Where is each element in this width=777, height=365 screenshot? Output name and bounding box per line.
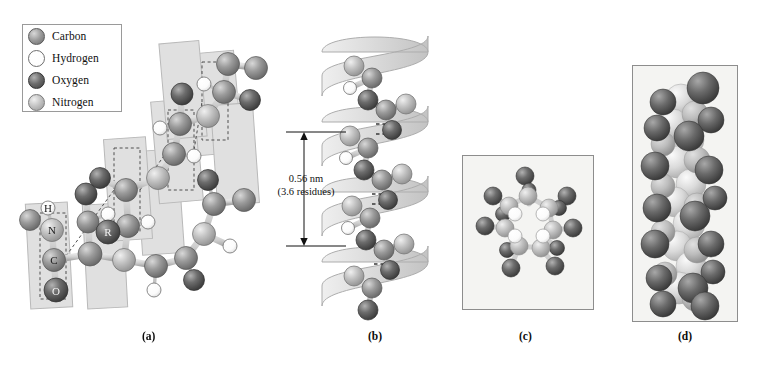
legend-item-carbon: Carbon bbox=[23, 25, 121, 47]
atom-label-hydrogen: H bbox=[44, 202, 52, 214]
panel-d-frame bbox=[632, 65, 738, 322]
legend-label-oxygen: Oxygen bbox=[52, 74, 89, 86]
pitch-residues-text: (3.6 residues) bbox=[268, 185, 344, 198]
panel-c-frame bbox=[462, 155, 594, 310]
atom-label-oxygen: O bbox=[52, 285, 60, 297]
legend-label-hydrogen: Hydrogen bbox=[52, 52, 99, 64]
pitch-nm-text: 0.56 nm bbox=[268, 172, 344, 185]
panel-caption-d: (d) bbox=[678, 330, 692, 342]
oxygen-sphere-icon bbox=[28, 72, 45, 89]
legend-item-oxygen: Oxygen bbox=[23, 69, 121, 91]
figure-canvas: H N C O R bbox=[0, 0, 777, 365]
pitch-value-label: 0.56 nm (3.6 residues) bbox=[268, 172, 344, 198]
panel-caption-a: (a) bbox=[142, 330, 155, 342]
panel-caption-c: (c) bbox=[519, 330, 532, 342]
legend-item-nitrogen: Nitrogen bbox=[23, 91, 121, 113]
legend-label-nitrogen: Nitrogen bbox=[52, 96, 94, 108]
atom-color-legend: Carbon Hydrogen Oxygen Nitrogen bbox=[22, 24, 122, 112]
atom-label-nitrogen: N bbox=[48, 224, 56, 236]
atom-label-carbon: C bbox=[50, 254, 57, 266]
panel-caption-b: (b) bbox=[368, 330, 382, 342]
panel-c-illustration bbox=[463, 156, 593, 309]
nitrogen-sphere-icon bbox=[28, 94, 45, 111]
hydrogen-sphere-icon bbox=[28, 50, 45, 67]
panel-d-illustration bbox=[633, 66, 737, 321]
legend-item-hydrogen: Hydrogen bbox=[23, 47, 121, 69]
carbon-sphere-icon bbox=[28, 28, 45, 45]
atom-label-sidechain: R bbox=[104, 226, 112, 238]
legend-label-carbon: Carbon bbox=[52, 30, 86, 42]
